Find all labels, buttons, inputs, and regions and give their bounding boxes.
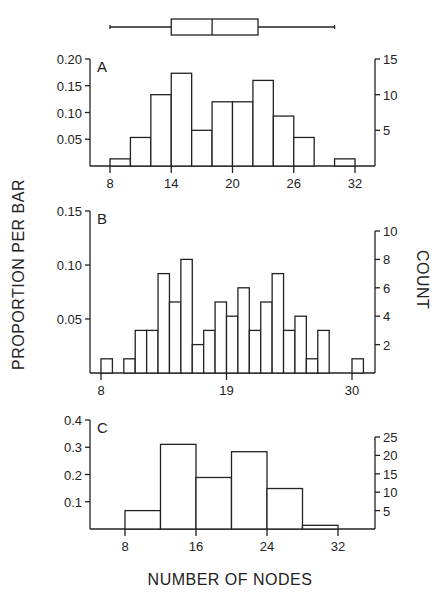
y-tick-label-left: 0.10 — [57, 258, 82, 273]
y-tick-label-left: 0.1 — [64, 495, 82, 510]
y-tick-label-left: 0.15 — [57, 204, 82, 219]
histogram-bar — [171, 73, 191, 166]
x-tick-label: 8 — [121, 539, 128, 554]
x-tick-label: 19 — [219, 383, 233, 398]
histogram-bar — [147, 330, 158, 373]
y-tick-label-right: 15 — [383, 52, 397, 67]
x-tick-label: 30 — [345, 383, 359, 398]
histogram-bar — [151, 95, 171, 166]
histogram-bar — [110, 159, 130, 166]
y-tick-label-left: 0.4 — [64, 413, 82, 428]
x-axis-label: NUMBER OF NODES — [148, 571, 313, 588]
histogram-bar — [267, 489, 303, 529]
y-tick-label-right: 8 — [383, 252, 390, 267]
histogram-bar — [196, 477, 232, 529]
x-tick-label: 16 — [189, 539, 203, 554]
histogram-bar — [306, 359, 317, 373]
histogram-bar — [124, 359, 135, 373]
histogram-bar — [215, 302, 226, 373]
histogram-bar — [303, 525, 339, 529]
histogram-bar — [101, 359, 112, 373]
y-axis-label-right: COUNT — [414, 250, 431, 309]
histogram-bar — [212, 102, 232, 166]
y-tick-label-right: 10 — [383, 88, 397, 103]
y-tick-label-right: 15 — [383, 467, 397, 482]
y-tick-label-right: 20 — [383, 448, 397, 463]
histogram-bar — [261, 302, 272, 373]
panel-label: A — [97, 58, 107, 75]
x-tick-label: 24 — [260, 539, 274, 554]
x-tick-label: 8 — [106, 176, 113, 191]
histogram-bar — [273, 116, 293, 166]
y-tick-label-right: 10 — [383, 485, 397, 500]
y-tick-label-right: 2 — [383, 338, 390, 353]
y-tick-label-left: 0.05 — [57, 312, 82, 327]
panel-label: C — [97, 419, 108, 436]
histogram-bar — [238, 288, 249, 373]
histogram-bar — [169, 302, 180, 373]
panel-label: B — [97, 210, 107, 227]
panel-c-histogram: 0.10.20.30.45101520258162432C — [64, 413, 398, 554]
histogram-bar — [181, 259, 192, 373]
histogram-bar — [158, 274, 169, 373]
y-tick-label-left: 0.20 — [57, 52, 82, 67]
histogram-bar — [161, 444, 197, 529]
histogram-bar — [253, 80, 273, 166]
x-tick-label: 8 — [97, 383, 104, 398]
y-tick-label-left: 0.10 — [57, 106, 82, 121]
histogram-bar — [135, 330, 146, 373]
x-tick-label: 26 — [287, 176, 301, 191]
y-tick-label-right: 6 — [383, 281, 390, 296]
histogram-bar — [249, 330, 260, 373]
histogram-bar — [192, 345, 203, 373]
y-tick-label-right: 10 — [383, 224, 397, 239]
y-tick-label-right: 5 — [383, 123, 390, 138]
y-tick-label-left: 0.3 — [64, 440, 82, 455]
y-tick-label-right: 5 — [383, 504, 390, 519]
x-tick-label: 20 — [225, 176, 239, 191]
histogram-bar — [284, 330, 295, 373]
histogram-bar — [233, 102, 253, 166]
histogram-bar — [352, 359, 363, 373]
y-tick-label-left: 0.05 — [57, 132, 82, 147]
histogram-figure: 0.050.100.150.2051015814202632A 0.050.10… — [0, 0, 445, 602]
x-tick-label: 32 — [348, 176, 362, 191]
box — [171, 19, 258, 35]
x-tick-label: 32 — [331, 539, 345, 554]
panel-b-histogram: 0.050.100.1524681081930B — [57, 204, 398, 398]
histogram-bar — [294, 137, 314, 166]
histogram-bar — [227, 316, 238, 373]
histogram-bar — [295, 316, 306, 373]
panel-a-histogram: 0.050.100.150.2051015814202632A — [57, 52, 398, 191]
histogram-bar — [125, 511, 161, 529]
boxplot — [110, 19, 335, 35]
histogram-bar — [318, 330, 329, 373]
x-tick-label: 14 — [164, 176, 178, 191]
histogram-bar — [335, 159, 355, 166]
y-tick-label-left: 0.15 — [57, 79, 82, 94]
y-tick-label-right: 4 — [383, 309, 390, 324]
histogram-bar — [232, 452, 268, 529]
y-axis-label-left: PROPORTION PER BAR — [10, 179, 27, 370]
y-tick-label-right: 25 — [383, 430, 397, 445]
histogram-bar — [130, 137, 150, 166]
y-tick-label-left: 0.2 — [64, 468, 82, 483]
histogram-bar — [204, 330, 215, 373]
histogram-bar — [192, 130, 212, 166]
histogram-bar — [272, 274, 283, 373]
